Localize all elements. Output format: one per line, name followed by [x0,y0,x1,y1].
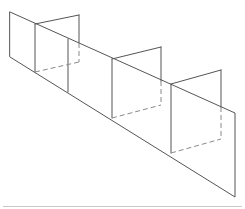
fin-bottom-hidden-edge [171,139,221,153]
bottom-rule [3,206,242,207]
fin-top-edge [35,15,79,24]
isometric-wall-diagram [0,0,245,209]
wall-layer [10,12,235,197]
wall-outline [10,12,235,197]
fin-top-edge [171,70,221,84]
fin-bottom-hidden-edge [112,105,161,118]
fin-top-edge [112,47,161,59]
fin-bottom-hidden-edge [35,62,79,72]
